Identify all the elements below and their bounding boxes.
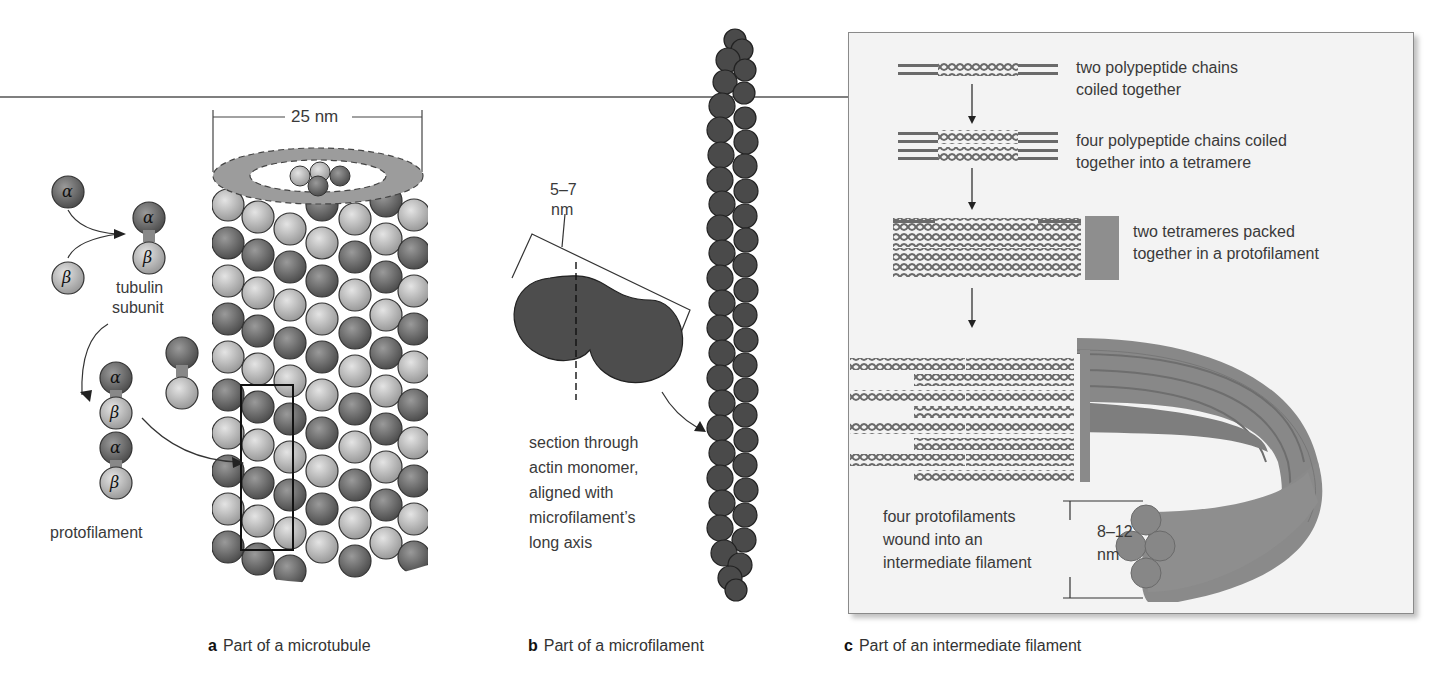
caption-a: aPart of a microtubule: [208, 637, 371, 655]
actin-section-description: section through actin monomer, aligned w…: [529, 430, 638, 555]
step-4-line3: intermediate filament: [883, 553, 1032, 573]
caption-c-letter: c: [844, 637, 853, 654]
coiled-dimer: [898, 62, 1058, 76]
tubulin-subunit-label-line1: tubulin: [116, 278, 163, 298]
caption-a-text: Part of a microtubule: [223, 637, 371, 654]
caption-a-letter: a: [208, 637, 217, 654]
alpha-symbol-free: α: [62, 182, 73, 202]
caption-b-letter: b: [528, 637, 538, 654]
protofilament: [893, 216, 1119, 280]
step-3-line1: two tetrameres packed: [1133, 222, 1295, 242]
beta-symbol-free: β: [62, 268, 71, 288]
cytoskeleton-figure: 25 nm α β α β α β α β tubulin subunit pr…: [0, 0, 1450, 693]
step-4-line1: four protofilaments: [883, 507, 1016, 527]
caption-c-text: Part of an intermediate filament: [859, 637, 1081, 654]
beta-symbol-proto-1: β: [110, 403, 119, 423]
step-3-line2: together in a protofilament: [1133, 244, 1319, 264]
if-dimension-line2: nm: [1097, 545, 1119, 565]
caption-c: cPart of an intermediate filament: [844, 637, 1081, 655]
tetramer: [898, 130, 1058, 161]
caption-b-text: Part of a microfilament: [544, 637, 704, 654]
section-line-3: aligned with: [529, 480, 638, 505]
step-1-line1: two polypeptide chains: [1076, 58, 1238, 78]
tubulin-subunit-label-line2: subunit: [112, 298, 164, 318]
caption-b: bPart of a microfilament: [528, 637, 704, 655]
if-dimension-line1: 8–12: [1097, 522, 1133, 542]
alpha-symbol-proto-2: α: [110, 438, 121, 458]
step-2-line2: together into a tetramere: [1076, 153, 1251, 173]
section-line-1: section through: [529, 430, 638, 455]
section-line-4: microfilament’s: [529, 505, 638, 530]
actin-dimension-line1: 5–7: [550, 180, 577, 200]
protofilament-label: protofilament: [50, 523, 143, 543]
microtubule-illustration: [0, 0, 470, 640]
beta-symbol-dimer: β: [143, 248, 152, 268]
beta-symbol-proto-2: β: [110, 473, 119, 493]
alpha-symbol-proto-1: α: [110, 368, 121, 388]
step-4-line2: wound into an: [883, 530, 983, 550]
step-2-line1: four polypeptide chains coiled: [1076, 131, 1287, 151]
section-line-5: long axis: [529, 530, 638, 555]
step-1-line2: coiled together: [1076, 80, 1181, 100]
dimension-25nm-label: 25 nm: [291, 107, 338, 127]
section-line-2: actin monomer,: [529, 455, 638, 480]
actin-dimension-line2: nm: [551, 200, 573, 220]
alpha-symbol-dimer: α: [143, 208, 154, 228]
